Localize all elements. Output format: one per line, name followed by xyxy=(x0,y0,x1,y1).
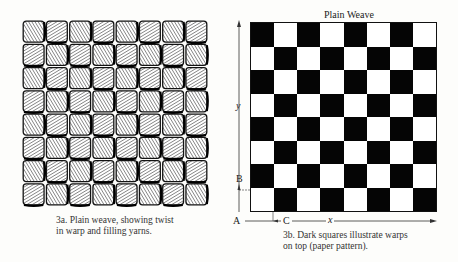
caption-3a: 3a. Plain weave, showing twist in warp a… xyxy=(56,215,174,237)
caption-3a-line1: 3a. Plain weave, showing twist xyxy=(56,215,174,226)
y-arrow-icon xyxy=(237,20,241,27)
axes xyxy=(229,0,458,262)
caption-3b: 3b. Dark squares illustrate warps on top… xyxy=(283,230,408,252)
label-B: B xyxy=(236,173,243,184)
y-axis-label: y xyxy=(236,100,240,111)
label-C: C xyxy=(281,215,292,226)
label-A: A xyxy=(233,215,240,226)
plain-weave-illustration: 3a. Plain weave, showing twist in warp a… xyxy=(0,0,229,262)
caption-3a-line2: in warp and filling yarns. xyxy=(56,226,174,237)
caption-3b-line1: 3b. Dark squares illustrate warps xyxy=(283,230,408,241)
x-arrow-icon xyxy=(430,219,437,223)
caption-3b-line2: on top (paper pattern). xyxy=(283,241,408,252)
woven-yarn-drawing xyxy=(22,20,208,206)
paper-pattern-diagram: Plain Weave y B A C x 3b. Dark squares i… xyxy=(229,0,458,262)
x-axis-label: x xyxy=(326,214,334,225)
